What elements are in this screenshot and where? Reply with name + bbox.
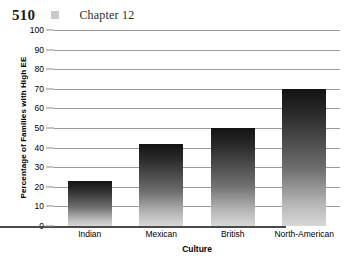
- page-header: 510 Chapter 12: [0, 0, 349, 30]
- y-axis-tick-mark: [46, 147, 54, 148]
- x-axis-tick-label: Mexican: [126, 229, 198, 239]
- y-axis-tick-mark: [46, 69, 54, 70]
- y-axis-tick-mark: [46, 167, 54, 168]
- y-axis-tick-mark: [46, 30, 54, 31]
- y-axis-tick-label: 10: [35, 202, 44, 211]
- y-axis-tick-mark: [46, 88, 54, 89]
- bar: [282, 89, 326, 226]
- y-axis-tick-label: 20: [35, 183, 44, 192]
- chapter-label: Chapter 12: [79, 8, 134, 23]
- x-axis-line: [0, 226, 286, 228]
- x-axis-title: Culture: [54, 244, 340, 254]
- y-axis-tick-label: 100: [30, 26, 44, 35]
- y-axis-tick-mark: [46, 186, 54, 187]
- y-axis-tick-mark: [46, 206, 54, 207]
- bar: [68, 181, 112, 226]
- x-axis-tick-label: Indian: [54, 229, 126, 239]
- y-axis-tick-label: 70: [35, 85, 44, 94]
- bar-series: [54, 30, 340, 226]
- bar: [139, 144, 183, 226]
- y-axis-tick-label: 90: [35, 45, 44, 54]
- bar: [211, 128, 255, 226]
- page-number: 510: [12, 7, 35, 24]
- gray-square-icon: [51, 11, 59, 19]
- y-axis-tick-mark: [46, 108, 54, 109]
- x-axis-tick-labels: IndianMexicanBritishNorth-American: [54, 229, 340, 243]
- plot-area: [54, 30, 340, 226]
- y-axis-tick-mark: [46, 226, 54, 227]
- y-axis-tick-mark: [46, 49, 54, 50]
- y-axis-tick-label: 80: [35, 65, 44, 74]
- y-axis-tick-label: 60: [35, 104, 44, 113]
- y-axis-tick-labels: 1009080706050403020100: [22, 30, 44, 226]
- y-axis-tick-label: 40: [35, 143, 44, 152]
- y-axis-tick-label: 30: [35, 163, 44, 172]
- x-axis-tick-label: North-American: [269, 229, 341, 239]
- x-axis-tick-label: British: [197, 229, 269, 239]
- y-axis-tick-mark: [46, 128, 54, 129]
- y-axis-tick-label: 50: [35, 124, 44, 133]
- bar-chart: Percentage of Families with High EE 1009…: [0, 30, 349, 273]
